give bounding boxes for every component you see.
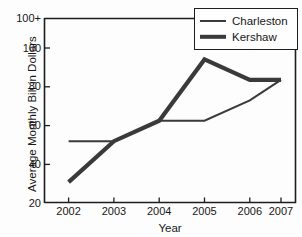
y-tick-label-100: 100 [0, 43, 41, 54]
x-tick-label-2003: 2003 [92, 206, 136, 217]
legend-line-swatch-charleston [199, 16, 227, 27]
x-tick-label-2007: 2007 [259, 206, 302, 217]
y-tick-label-60: 60 [0, 120, 41, 131]
x-axis-title: Year [44, 222, 296, 234]
y-tick-label-80: 80 [0, 81, 41, 92]
legend-item-charleston[interactable]: Charleston [199, 13, 294, 29]
y-tick-label-20: 20 [0, 198, 41, 209]
line-chart: Average Monthly Bill in Dollars Year 100… [0, 0, 302, 237]
chart-legend: Charleston Kershaw [194, 8, 298, 50]
x-tick-label-2004: 2004 [137, 206, 181, 217]
y-tick-label-100plus: 100+ [0, 13, 41, 24]
legend-line-swatch-kershaw [199, 32, 227, 43]
y-tick-label-40: 40 [0, 159, 41, 170]
x-tick-label-2002: 2002 [47, 206, 91, 217]
legend-item-kershaw[interactable]: Kershaw [199, 29, 294, 45]
x-tick-label-2005: 2005 [183, 206, 227, 217]
legend-label-charleston: Charleston [227, 15, 288, 27]
legend-label-kershaw: Kershaw [227, 31, 277, 43]
series-line-charleston [69, 80, 281, 141]
